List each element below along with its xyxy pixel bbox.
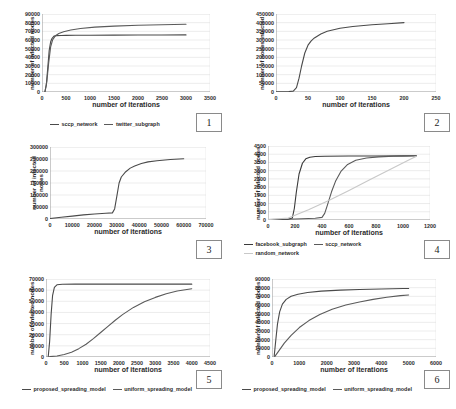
x-tick-label: 4000 [375, 360, 387, 366]
plot-area [46, 279, 210, 357]
panel-number-badge: 6 [424, 370, 450, 389]
plot-area [50, 147, 206, 219]
y-tick-label: 10000 [29, 343, 44, 349]
x-tick-label: 50 [305, 95, 311, 101]
legend-line-swatch-icon [314, 244, 323, 245]
legend-label: sccp_network [62, 120, 98, 129]
y-tick-label: 100000 [30, 192, 48, 198]
y-tick-label: 30000 [29, 321, 44, 327]
x-tick-label: 150 [368, 95, 377, 101]
y-tick-label: 4000 [254, 151, 266, 157]
legend-item[interactable]: uniform_spreading_model [113, 385, 192, 394]
x-tick-label: 50000 [154, 222, 169, 228]
y-tick-label: 60000 [25, 37, 40, 43]
legend-line-swatch-icon [104, 124, 113, 125]
x-tick-label: 1000 [76, 360, 88, 366]
x-tick-label: 2000 [113, 360, 125, 366]
y-axis-ticks: 010000200003000040000500006000070000 [12, 279, 44, 357]
legend-item[interactable]: facebook_subgraph [244, 240, 307, 249]
y-tick-label: 80000 [25, 20, 40, 26]
y-tick-label: 20000 [25, 72, 40, 78]
x-tick-label: 40000 [132, 222, 147, 228]
y-tick-label: 40000 [25, 54, 40, 60]
y-axis-ticks: 0100002000030000400005000060000700008000… [10, 14, 40, 92]
plot-area [276, 14, 436, 92]
x-tick-label: 6000 [430, 360, 442, 366]
legend-line-swatch-icon [113, 389, 122, 390]
y-axis-ticks: 0100002000030000400005000060000700008000… [238, 279, 270, 357]
y-tick-label: 300000 [256, 37, 274, 43]
x-tick-label: 0 [45, 360, 48, 366]
y-tick-label: 400000 [256, 20, 274, 26]
legend-item[interactable]: proposed_spreading_model [242, 385, 326, 394]
legend-item[interactable]: proposed_spreading_model [22, 385, 106, 394]
panel-number-badge: 4 [424, 240, 450, 259]
x-tick-label: 600 [345, 223, 354, 229]
legend-item[interactable]: uniform_spreading_model [333, 385, 412, 394]
y-tick-label: 100000 [256, 72, 274, 78]
y-tick-label: 150000 [256, 63, 274, 69]
x-tick-label: 4500 [204, 360, 216, 366]
x-tick-label: 4000 [186, 360, 198, 366]
chart-legend: facebook_subgraphsccp_networkrandom_netw… [244, 240, 430, 258]
legend-item[interactable]: sccp_network [314, 240, 361, 249]
legend-item[interactable]: random_network [244, 249, 299, 258]
chart-legend: proposed_spreading_modeluniform_spreadin… [22, 385, 202, 394]
legend-item[interactable]: twitter_subgraph [104, 120, 159, 129]
x-tick-label: 500 [60, 360, 69, 366]
y-axis-ticks: 050010001500200025003000350040004500 [238, 146, 266, 220]
x-tick-label: 0 [275, 95, 278, 101]
legend-item[interactable]: sccp_network [50, 120, 97, 129]
y-tick-label: 40000 [29, 309, 44, 315]
x-tick-label: 1500 [95, 360, 107, 366]
y-tick-label: 50000 [25, 46, 40, 52]
x-tick-label: 1500 [108, 95, 120, 101]
y-tick-label: 250000 [30, 156, 48, 162]
x-axis-label: number of iterations [272, 366, 436, 373]
x-tick-label: 500 [62, 95, 71, 101]
x-tick-label: 1200 [424, 223, 436, 229]
x-tick-label: 0 [267, 223, 270, 229]
x-tick-label: 1000 [397, 223, 409, 229]
legend-label: uniform_spreading_model [344, 385, 412, 394]
y-tick-label: 1000 [254, 201, 266, 207]
figure-panel-grid: number of infected nodes0100002000030000… [0, 0, 456, 409]
x-tick-label: 3000 [348, 360, 360, 366]
x-tick-label: 20000 [87, 222, 102, 228]
x-tick-label: 70000 [199, 222, 214, 228]
y-tick-label: 50000 [33, 204, 48, 210]
legend-label: twitter_subgraph [116, 120, 160, 129]
panel-number-badge: 3 [196, 240, 222, 259]
y-tick-label: 30000 [25, 63, 40, 69]
y-tick-label: 4500 [254, 143, 266, 149]
plot-area [268, 146, 430, 220]
chart-panel-5: number of infected nodes0100002000030000… [0, 267, 228, 409]
legend-line-swatch-icon [22, 389, 31, 390]
legend-line-swatch-icon [242, 389, 251, 390]
x-tick-label: 3500 [204, 95, 216, 101]
x-axis-label: number of iterations [46, 366, 210, 373]
x-tick-label: 200 [400, 95, 409, 101]
y-tick-label: 10000 [25, 80, 40, 86]
x-tick-label: 800 [372, 223, 381, 229]
y-tick-label: 3000 [254, 168, 266, 174]
panel-number-badge: 1 [196, 113, 222, 132]
x-tick-label: 2500 [156, 95, 168, 101]
legend-line-swatch-icon [244, 244, 253, 245]
y-tick-label: 80000 [255, 285, 270, 291]
plot-area [272, 279, 436, 357]
y-tick-label: 2500 [254, 176, 266, 182]
y-tick-label: 70000 [29, 276, 44, 282]
legend-label: random_network [256, 249, 299, 258]
y-tick-label: 2000 [254, 184, 266, 190]
chart-panel-4: number of infected nodes0500100015002000… [228, 136, 456, 267]
legend-line-swatch-icon [244, 253, 253, 254]
y-tick-label: 60000 [29, 287, 44, 293]
y-tick-label: 70000 [255, 293, 270, 299]
legend-line-swatch-icon [50, 124, 59, 125]
legend-label: sccp_network [325, 240, 361, 249]
chart-legend: proposed_spreading_modeluniform_spreadin… [242, 385, 430, 394]
panel-number-badge: 2 [424, 113, 450, 132]
y-tick-label: 1500 [254, 192, 266, 198]
x-tick-label: 0 [271, 360, 274, 366]
